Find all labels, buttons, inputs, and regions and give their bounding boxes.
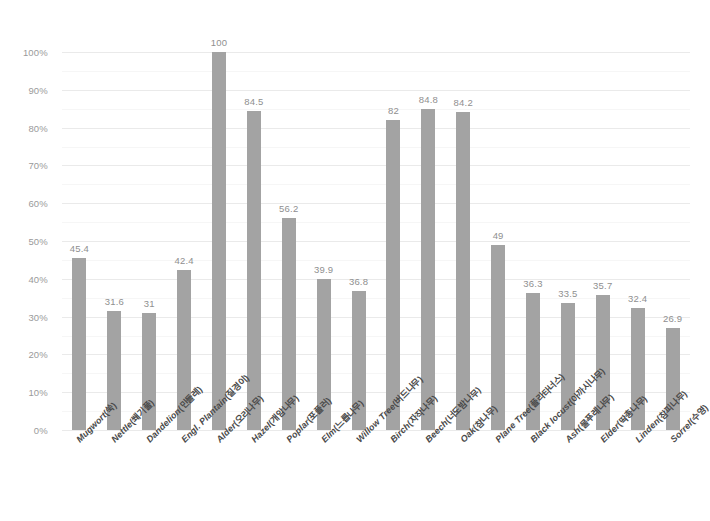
bar-group[interactable]: 39.9 (317, 52, 331, 430)
x-axis: Mugwort(쑥)Nettle(쐐기풀)Dandelion(민들레)Engl.… (62, 432, 690, 521)
x-tick-label-ko: (수영) (687, 403, 710, 426)
bar-group[interactable]: 31.6 (107, 52, 121, 430)
bar[interactable] (72, 258, 86, 430)
bar-value-label: 84.8 (419, 94, 438, 105)
bar-value-label: 45.4 (70, 243, 89, 254)
bar-group[interactable]: 26.9 (666, 52, 680, 430)
bar-value-label: 35.7 (593, 280, 612, 291)
bar-group[interactable]: 84.8 (421, 52, 435, 430)
bar-group[interactable]: 36.3 (526, 52, 540, 430)
bar-value-label: 31.6 (105, 296, 124, 307)
bar-value-label: 56.2 (279, 203, 298, 214)
bar-group[interactable]: 100 (212, 52, 226, 430)
y-axis: 0%10%20%30%40%50%60%70%80%90%100% (0, 52, 56, 430)
y-tick-label: 30% (28, 311, 48, 322)
bar[interactable] (212, 52, 226, 430)
bar-value-label: 31 (144, 298, 155, 309)
y-tick-label: 90% (28, 84, 48, 95)
bar-value-label: 39.9 (314, 264, 333, 275)
bar-group[interactable]: 49 (491, 52, 505, 430)
bar[interactable] (456, 112, 470, 430)
bar-group[interactable]: 84.5 (247, 52, 261, 430)
bar-value-label: 42.4 (174, 255, 193, 266)
bar-group[interactable]: 33.5 (561, 52, 575, 430)
bar-value-label: 36.8 (349, 276, 368, 287)
y-tick-label: 10% (28, 387, 48, 398)
bar-group[interactable]: 31 (142, 52, 156, 430)
y-tick-label: 0% (34, 425, 48, 436)
bar[interactable] (491, 245, 505, 430)
bar-group[interactable]: 45.4 (72, 52, 86, 430)
bar-value-label: 32.4 (628, 293, 647, 304)
bar-group[interactable]: 42.4 (177, 52, 191, 430)
bar-value-label: 49 (493, 230, 504, 241)
bar-value-label: 33.5 (558, 288, 577, 299)
bar-value-label: 84.5 (244, 96, 263, 107)
bar-value-label: 36.3 (523, 278, 542, 289)
bar-value-label: 82 (388, 105, 399, 116)
bar-group[interactable]: 32.4 (631, 52, 645, 430)
bar-value-label: 84.2 (454, 97, 473, 108)
y-tick-label: 20% (28, 349, 48, 360)
bar-group[interactable]: 56.2 (282, 52, 296, 430)
y-tick-label: 100% (23, 47, 48, 58)
y-tick-label: 50% (28, 236, 48, 247)
y-tick-label: 80% (28, 122, 48, 133)
y-tick-label: 60% (28, 198, 48, 209)
bar[interactable] (386, 120, 400, 430)
bar-group[interactable]: 84.2 (456, 52, 470, 430)
y-tick-label: 70% (28, 160, 48, 171)
y-tick-label: 40% (28, 273, 48, 284)
bar-value-label: 26.9 (663, 313, 682, 324)
bar-group[interactable]: 36.8 (352, 52, 366, 430)
bar-group[interactable]: 82 (386, 52, 400, 430)
bar-value-label: 100 (211, 37, 227, 48)
